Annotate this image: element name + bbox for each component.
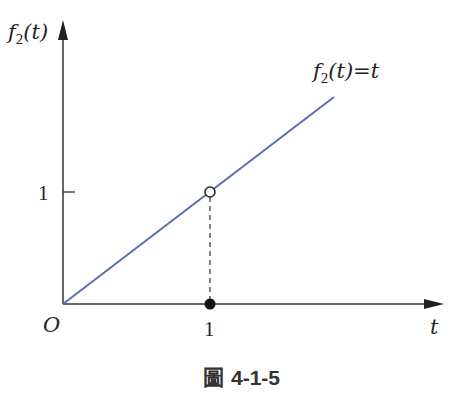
caption-prefix: 圖 bbox=[203, 366, 224, 389]
filled-point bbox=[205, 299, 216, 310]
function-line bbox=[63, 97, 334, 304]
x-axis-label: t bbox=[430, 315, 439, 339]
origin-label: O bbox=[43, 313, 60, 337]
y-axis-arrow-icon bbox=[58, 20, 68, 40]
curve-label: f2(t)=t bbox=[311, 59, 380, 86]
graph: f2(t) f2(t)=t 1 O 1 t 圖 4-1-5 bbox=[0, 0, 463, 417]
x-axis-arrow-icon bbox=[424, 299, 444, 309]
y-tick-label: 1 bbox=[38, 181, 49, 205]
caption-number: 4-1-5 bbox=[231, 366, 280, 389]
y-axis-label: f2(t) bbox=[6, 20, 48, 47]
open-point bbox=[205, 187, 215, 197]
x-tick-label: 1 bbox=[204, 317, 215, 341]
